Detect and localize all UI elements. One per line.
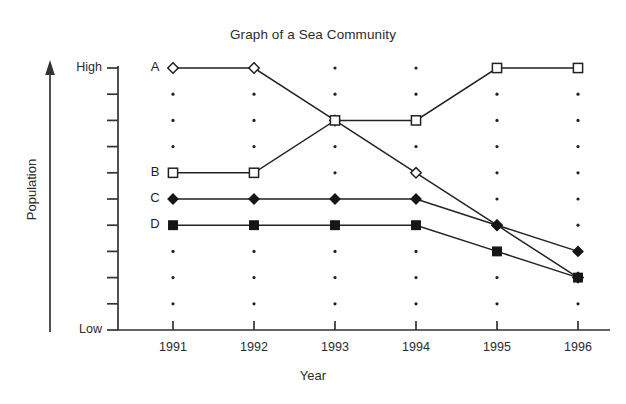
data-point-C-1992: [249, 194, 259, 204]
data-point-C-1991: [168, 194, 178, 204]
grid-dots: [171, 66, 579, 305]
series-key-B: B: [146, 164, 164, 179]
data-point-C-1993: [330, 194, 340, 204]
series-layer: [168, 63, 583, 283]
data-point-A-1994: [411, 168, 421, 178]
x-tick-label-1992: 1992: [219, 340, 289, 354]
series-key-C: C: [146, 190, 164, 205]
data-point-D-1991: [169, 221, 178, 230]
series-key-D: D: [146, 216, 164, 231]
axis-frame: [107, 66, 610, 330]
data-point-B-1994: [411, 116, 420, 125]
x-tick-label-1991: 1991: [138, 340, 208, 354]
data-point-B-1996: [573, 63, 582, 72]
data-point-B-1993: [330, 116, 339, 125]
series-line-D: [173, 225, 578, 277]
x-tick-label-1996: 1996: [543, 340, 613, 354]
data-point-D-1993: [331, 221, 340, 230]
data-point-A-1991: [168, 63, 178, 73]
data-point-B-1995: [492, 63, 501, 72]
data-point-D-1994: [412, 221, 421, 230]
chart-figure: Graph of a Sea Community High Low Popula…: [0, 0, 626, 404]
data-point-C-1996: [573, 246, 583, 256]
series-line-B: [173, 68, 578, 173]
data-point-C-1995: [492, 220, 502, 230]
x-tick-label-1993: 1993: [300, 340, 370, 354]
data-point-D-1992: [250, 221, 259, 230]
data-point-B-1991: [168, 168, 177, 177]
y-axis-direction-arrow: [45, 60, 55, 332]
x-tick-label-1995: 1995: [462, 340, 532, 354]
x-tick-label-1994: 1994: [381, 340, 451, 354]
series-key-A: A: [146, 59, 164, 74]
data-point-D-1996: [574, 273, 583, 282]
data-point-A-1992: [249, 63, 259, 73]
data-point-B-1992: [249, 168, 258, 177]
data-point-C-1994: [411, 194, 421, 204]
data-point-D-1995: [493, 247, 502, 256]
